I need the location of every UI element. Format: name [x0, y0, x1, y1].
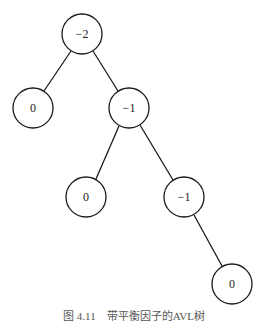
node-label: 0: [83, 190, 89, 204]
edge-n1-n3: [93, 51, 118, 91]
tree-node-left: 0: [13, 88, 53, 128]
tree-node-right-left: 0: [66, 177, 106, 217]
tree-node-root: −2: [62, 14, 102, 54]
node-label: −1: [123, 101, 136, 115]
tree-node-right: −1: [109, 88, 149, 128]
tree-node-right-right: −1: [164, 177, 204, 217]
node-label: −2: [76, 27, 89, 41]
edge-n3-n4: [96, 126, 119, 179]
edge-n3-n5: [140, 125, 173, 180]
tree-node-leaf: 0: [212, 264, 252, 304]
node-label: 0: [30, 101, 36, 115]
edge-n1-n2: [44, 51, 71, 91]
figure-caption: 图 4.11 带平衡因子的AVL树: [0, 307, 268, 323]
edges: [44, 51, 222, 266]
node-label: 0: [229, 277, 235, 291]
node-label: −1: [178, 190, 191, 204]
edge-n5-n6: [194, 215, 222, 266]
